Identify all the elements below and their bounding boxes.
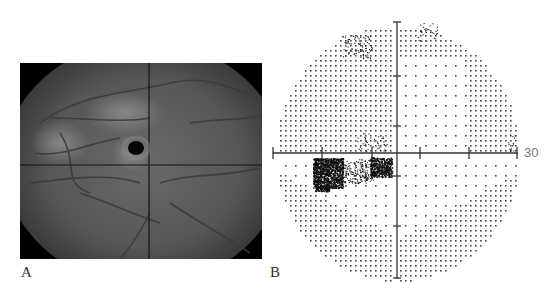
- visual-field-plot: [265, 10, 555, 290]
- fundus-image: [20, 63, 262, 259]
- fundus-photograph: [20, 63, 262, 259]
- lesion-spot: [128, 141, 144, 155]
- axis-degree-label: 30: [524, 145, 538, 160]
- visual-field-chart: [265, 10, 555, 290]
- panel-label-b: B: [270, 264, 280, 281]
- panel-label-a: A: [21, 264, 32, 281]
